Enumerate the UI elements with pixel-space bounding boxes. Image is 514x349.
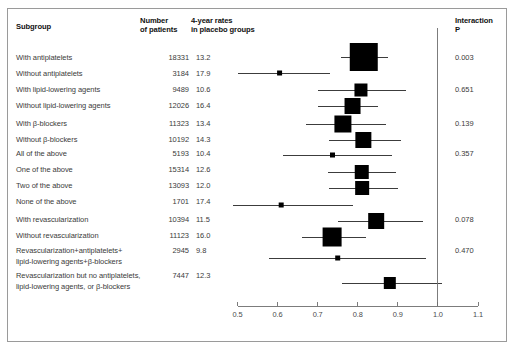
interaction-p-value: 0.470 [455,246,495,255]
subgroup-label: None of the above [16,197,76,206]
figure-border [7,8,507,342]
placebo-rate-value: 14.3 [196,135,222,144]
placebo-rate-value: 9.8 [196,246,222,255]
subgroup-label-continuation: lipid-lowering agents, or β-blockers [16,282,130,291]
subgroup-label: Without revascularization [16,231,99,240]
interaction-p-value: 0.003 [455,53,495,62]
subgroup-label: One of the above [16,165,73,174]
column-header-interaction-line2: P [455,25,511,34]
subgroup-label: All of the above [16,149,67,158]
placebo-rate-value: 17.9 [196,69,222,78]
subgroup-label-continuation: lipid-lowering agents+β-blockers [16,257,122,266]
number-of-patients-value: 13093 [137,181,189,190]
subgroup-label: Revascularization but no antiplatelets, [16,271,140,280]
placebo-rate-value: 16.0 [196,231,222,240]
interaction-p-value: 0.651 [455,85,495,94]
subgroup-label: Without antiplatelets [16,69,83,78]
interaction-p-value: 0.139 [455,119,495,128]
number-of-patients-value: 7447 [137,271,189,280]
column-header-rates-line1: 4-year rates [191,16,301,25]
placebo-rate-value: 12.0 [196,181,222,190]
forest-plot-figure: Subgroup Number of patients 4-year rates… [0,0,514,349]
number-of-patients-value: 10394 [137,215,189,224]
subgroup-label: With β-blockers [16,119,67,128]
interaction-p-value: 0.357 [455,149,495,158]
number-of-patients-value: 12026 [137,101,189,110]
number-of-patients-value: 5193 [137,149,189,158]
x-axis-tick-label: 1.0 [423,310,453,319]
number-of-patients-value: 1701 [137,197,189,206]
x-axis-tick-label: 0.7 [303,310,333,319]
number-of-patients-value: 10192 [137,135,189,144]
subgroup-label: Revascularization+antiplatelets+ [16,246,122,255]
placebo-rate-value: 12.6 [196,165,222,174]
placebo-rate-value: 13.2 [196,53,222,62]
number-of-patients-value: 11323 [137,119,189,128]
number-of-patients-value: 3184 [137,69,189,78]
column-header-interaction-line1: Interaction [455,16,511,25]
placebo-rate-value: 13.4 [196,119,222,128]
column-header-interaction-p: Interaction P [455,16,511,35]
number-of-patients-value: 18331 [137,53,189,62]
subgroup-label: Two of the above [16,181,72,190]
x-axis-tick-label: 0.8 [343,310,373,319]
subgroup-label: With revascularization [16,215,88,224]
x-axis-tick-label: 0.9 [383,310,413,319]
x-axis-tick-label: 0.5 [223,310,253,319]
column-header-rates-line2: in placebo groups [191,25,301,34]
number-of-patients-value: 11123 [137,231,189,240]
placebo-rate-value: 12.3 [196,271,222,280]
placebo-rate-value: 16.4 [196,101,222,110]
placebo-rate-value: 10.6 [196,85,222,94]
column-header-4-year-rates: 4-year rates in placebo groups [191,16,301,35]
number-of-patients-value: 15314 [137,165,189,174]
interaction-p-value: 0.078 [455,215,495,224]
x-axis-tick-label: 1.1 [463,310,493,319]
subgroup-label: Without β-blockers [16,135,77,144]
placebo-rate-value: 10.4 [196,149,222,158]
subgroup-label: With antiplatelets [16,53,72,62]
subgroup-label: With lipid-lowering agents [16,85,100,94]
subgroup-label: Without lipid-lowering agents [16,101,110,110]
placebo-rate-value: 17.4 [196,197,222,206]
x-axis-tick-label: 0.6 [263,310,293,319]
number-of-patients-value: 9489 [137,85,189,94]
column-header-subgroup: Subgroup [16,22,51,31]
number-of-patients-value: 2945 [137,246,189,255]
placebo-rate-value: 11.5 [196,215,222,224]
